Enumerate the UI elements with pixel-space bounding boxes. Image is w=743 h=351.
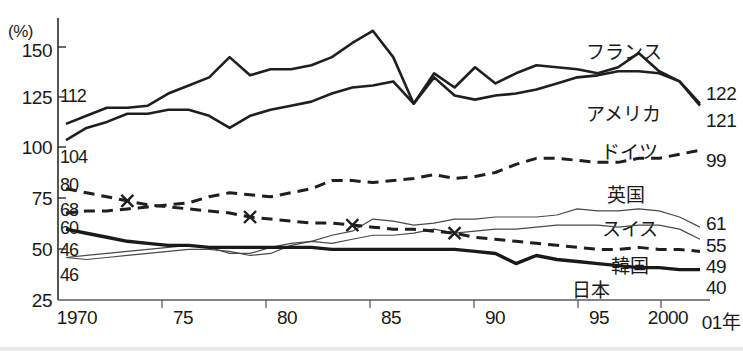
chart-plot-svg (0, 0, 743, 351)
chart-series-group (66, 31, 700, 270)
series-line-america (66, 71, 700, 140)
series-line-germany (66, 150, 700, 213)
series-line-united-kingdom (66, 209, 700, 260)
bottom-divider (0, 347, 743, 351)
chart-container: (%) 150 125 100 75 50 25 1970 75 80 85 9… (0, 0, 743, 351)
